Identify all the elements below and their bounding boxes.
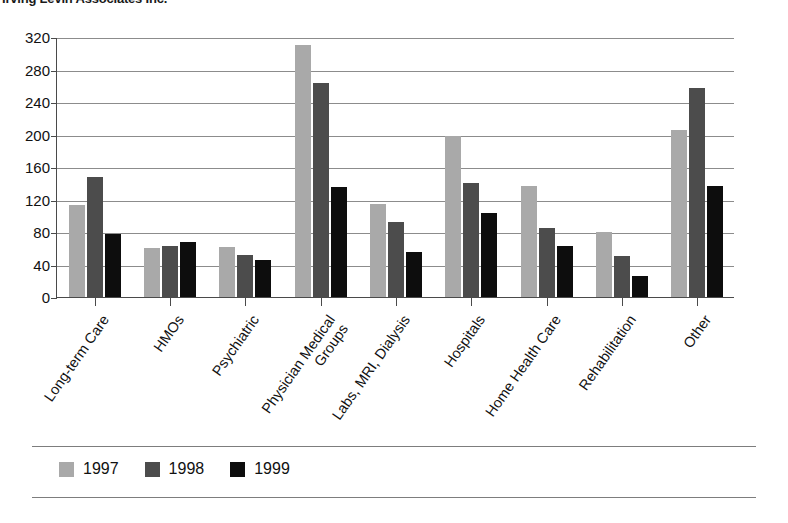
x-axis-tick [396, 297, 397, 306]
bar-1999 [707, 186, 723, 297]
x-axis-tick [547, 297, 548, 306]
bar-1999 [557, 246, 573, 297]
bar-group [671, 38, 723, 297]
legend-item-1998[interactable]: 1998 [145, 461, 205, 477]
bar-1997 [596, 232, 612, 297]
bar-1998 [162, 246, 178, 297]
y-axis-label-group: 04080120160200240280320 [8, 38, 50, 298]
bar-1999 [105, 234, 121, 297]
bar-1997 [671, 130, 687, 297]
legend-items: 199719981999 [59, 461, 290, 477]
bar-1999 [255, 260, 271, 297]
bar-1999 [331, 187, 347, 297]
bar-1998 [463, 183, 479, 297]
bar-1998 [539, 228, 555, 297]
bar-1997 [295, 45, 311, 297]
legend-label-1999: 1999 [254, 461, 290, 477]
y-axis-tick-label: 280 [10, 63, 50, 78]
bar-1998 [614, 256, 630, 297]
y-axis-tick-label: 0 [10, 290, 50, 305]
legend-swatch-1998 [145, 462, 160, 477]
x-axis-tick-label: Hospitals [441, 312, 489, 370]
source-note: Irving Levin Associates Inc. [2, 0, 167, 6]
y-axis-tick-label: 160 [10, 160, 50, 175]
bar-1999 [481, 213, 497, 297]
y-axis-tick-label: 320 [10, 30, 50, 45]
x-axis-tick-label: Psychiatric [209, 312, 263, 379]
legend-swatch-1997 [59, 462, 74, 477]
bar-1998 [313, 83, 329, 297]
bar-1997 [521, 186, 537, 297]
x-axis-tick [170, 297, 171, 306]
y-axis-tick-label: 80 [10, 225, 50, 240]
bar-group [370, 38, 422, 297]
x-axis-tick-label: HMOs [150, 312, 187, 355]
x-axis-tick [697, 297, 698, 306]
bar-1998 [87, 177, 103, 297]
bar-1997 [219, 247, 235, 297]
bar-1998 [237, 255, 253, 297]
bar-1999 [406, 252, 422, 297]
legend: 199719981999 [32, 446, 756, 498]
legend-item-1999[interactable]: 1999 [230, 461, 290, 477]
bar-1997 [69, 205, 85, 297]
x-axis-tick [471, 297, 472, 306]
bar-group [295, 38, 347, 297]
bar-1997 [445, 136, 461, 297]
x-axis-tick-label: Rehabilitation [576, 312, 640, 393]
y-axis-tick-label: 240 [10, 95, 50, 110]
bar-1999 [180, 242, 196, 297]
chart-plot-area [56, 38, 734, 298]
legend-swatch-1999 [230, 462, 245, 477]
y-axis-tick [51, 298, 57, 299]
bar-group [69, 38, 121, 297]
legend-label-1997: 1997 [83, 461, 119, 477]
bar-1998 [689, 88, 705, 297]
legend-item-1997[interactable]: 1997 [59, 461, 119, 477]
y-axis-tick-label: 200 [10, 128, 50, 143]
x-axis-tick [321, 297, 322, 306]
bar-1999 [632, 276, 648, 297]
legend-label-1998: 1998 [169, 461, 205, 477]
bar-1998 [388, 222, 404, 297]
x-axis-tick [622, 297, 623, 306]
x-axis-tick [245, 297, 246, 306]
y-axis-tick-label: 120 [10, 193, 50, 208]
bar-group [445, 38, 497, 297]
y-axis-tick-label: 40 [10, 258, 50, 273]
x-axis-tick [95, 297, 96, 306]
bar-series-layer [57, 38, 734, 297]
bar-group [144, 38, 196, 297]
x-axis-tick-label: Other [681, 312, 715, 351]
bar-1997 [370, 204, 386, 297]
bar-group [596, 38, 648, 297]
x-axis-tick-label: Long-term Care [40, 312, 112, 404]
x-axis-tick-label: Home Health Care [482, 312, 564, 420]
bar-1997 [144, 248, 160, 297]
bar-group [219, 38, 271, 297]
bar-group [521, 38, 573, 297]
